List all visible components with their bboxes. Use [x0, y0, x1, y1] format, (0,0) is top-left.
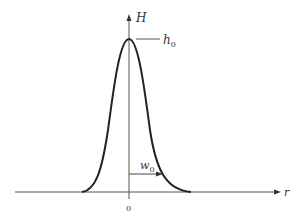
width-label: w0	[140, 159, 155, 174]
r-axis-arrow-icon	[274, 190, 281, 195]
gaussian-diagram: h0 w0 H r 0	[0, 0, 299, 224]
origin-label: 0	[126, 204, 131, 213]
peak-label: h0	[163, 33, 176, 49]
gaussian-curve	[82, 39, 191, 192]
r-axis-label: r	[284, 186, 290, 199]
h-axis-label: H	[135, 11, 147, 25]
h-axis-arrow-icon	[127, 14, 132, 21]
